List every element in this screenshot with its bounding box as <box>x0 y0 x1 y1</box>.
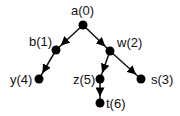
node-dot-icon <box>96 75 105 84</box>
nodes-group: a(0)b(1)w(2)y(4)z(5)s(3)t(6) <box>10 3 173 111</box>
arrowhead-icon <box>131 70 135 74</box>
edge-b-y <box>39 50 56 79</box>
node-label: a(0) <box>71 3 94 18</box>
edge-a-w <box>83 25 110 51</box>
tree-diagram: a(0)b(1)w(2)y(4)z(5)s(3)t(6) <box>0 0 180 116</box>
edge-a-b <box>56 25 83 50</box>
edge-w-s <box>110 51 141 79</box>
arrowhead-icon <box>100 42 104 46</box>
node-a: a(0) <box>71 3 94 30</box>
node-label: s(3) <box>151 72 173 87</box>
node-label: b(1) <box>29 34 52 49</box>
node-label: y(4) <box>10 72 32 87</box>
node-y: y(4) <box>10 72 44 87</box>
node-dot-icon <box>106 47 115 56</box>
arrowhead-icon <box>62 41 66 45</box>
node-dot-icon <box>52 46 61 55</box>
node-label: z(5) <box>73 72 95 87</box>
arrowhead-icon <box>43 67 46 72</box>
node-dot-icon <box>79 21 88 30</box>
node-dot-icon <box>137 75 146 84</box>
node-b: b(1) <box>29 34 61 55</box>
node-dot-icon <box>96 99 105 108</box>
node-label: w(2) <box>116 35 142 50</box>
node-s: s(3) <box>137 72 174 87</box>
node-w: w(2) <box>106 35 143 56</box>
node-dot-icon <box>35 75 44 84</box>
arrowhead-icon <box>103 66 105 72</box>
node-label: t(6) <box>106 96 126 111</box>
